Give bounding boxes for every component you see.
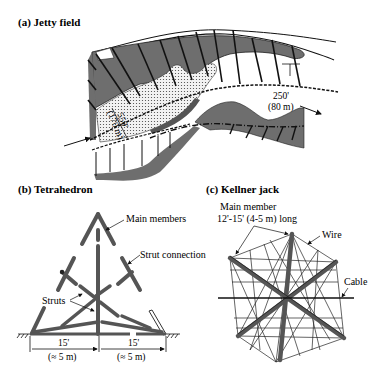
cable-pointer [342,288,348,297]
panel-b-title: (b) Tetrahedron [18,183,93,196]
panel-c-kellner-jack: (c) Kellner jack Main member 12'-15' (4-… [206,183,368,362]
cable-label: Cable [344,276,368,287]
panel-c-title: (c) Kellner jack [206,183,280,196]
panel-a-jetty-field: (a) Jetty field [18,16,338,181]
figure-canvas: (a) Jetty field [0,0,387,379]
strut-joint-left [60,270,64,274]
base-dimensions [30,336,166,352]
main-member-pointer-2 [254,226,288,234]
panel-a-title: (a) Jetty field [18,16,80,29]
panel-b-tetrahedron: (b) Tetrahedron [17,183,206,363]
flow-arrow-in [64,138,90,146]
wire-label: Wire [322,229,342,240]
spacing-ft-label: 250' [273,91,289,101]
main-member-label-line1: Main member [220,201,277,212]
struts-pointer-1 [70,294,82,300]
main-member-label-line2: 12'-15' (4-5 m) long [217,213,297,225]
strut-connection-pointer [128,255,140,264]
spacing-m-label: (80 m) [268,102,294,113]
wire-pointer [308,236,320,244]
dim-left-ft: 15' [58,338,70,348]
dim-right-ft: 15' [128,338,140,348]
main-members-pointer [106,220,124,230]
strut-connection-label: Strut connection [140,249,206,260]
dim-right-m: (≈ 5 m) [117,352,145,363]
struts-label: Struts [42,295,65,306]
main-members-label: Main members [126,213,186,224]
dim-left-m: (≈ 5 m) [48,352,76,363]
